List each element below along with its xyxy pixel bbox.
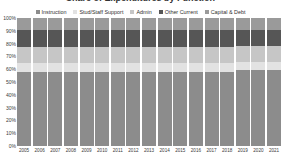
bar-segment-stud-staff-support[interactable] <box>33 63 47 72</box>
bar-segment-other-current[interactable] <box>95 30 109 48</box>
bar-segment-instruction[interactable] <box>17 72 31 146</box>
bar-segment-stud-staff-support[interactable] <box>95 63 109 72</box>
bar-2015[interactable] <box>173 18 187 146</box>
bar-segment-stud-staff-support[interactable] <box>64 63 78 72</box>
bar-segment-instruction[interactable] <box>267 70 281 146</box>
bar-2020[interactable] <box>251 18 265 146</box>
bar-segment-stud-staff-support[interactable] <box>158 63 172 72</box>
bar-segment-instruction[interactable] <box>64 72 78 146</box>
bar-segment-other-current[interactable] <box>205 30 219 48</box>
bar-segment-admin[interactable] <box>111 47 125 62</box>
legend-item[interactable]: Capital & Debt <box>205 9 246 15</box>
bar-segment-admin[interactable] <box>48 47 62 62</box>
bar-segment-stud-staff-support[interactable] <box>80 63 94 72</box>
bar-segment-instruction[interactable] <box>173 72 187 146</box>
bar-segment-admin[interactable] <box>95 47 109 62</box>
bar-segment-capital-debt[interactable] <box>33 18 47 30</box>
bar-segment-instruction[interactable] <box>111 72 125 146</box>
bar-segment-capital-debt[interactable] <box>189 18 203 30</box>
bar-segment-capital-debt[interactable] <box>126 18 140 30</box>
bar-2017[interactable] <box>205 18 219 146</box>
bar-segment-stud-staff-support[interactable] <box>48 63 62 72</box>
bar-segment-instruction[interactable] <box>158 72 172 146</box>
bar-2013[interactable] <box>142 18 156 146</box>
bar-segment-other-current[interactable] <box>80 30 94 48</box>
bar-segment-instruction[interactable] <box>95 72 109 146</box>
bar-2019[interactable] <box>236 18 250 146</box>
bar-segment-stud-staff-support[interactable] <box>126 63 140 72</box>
bar-segment-admin[interactable] <box>267 46 281 61</box>
bar-segment-capital-debt[interactable] <box>95 18 109 30</box>
bar-segment-instruction[interactable] <box>220 72 234 146</box>
bar-segment-stud-staff-support[interactable] <box>17 63 31 72</box>
bar-segment-other-current[interactable] <box>17 30 31 48</box>
bar-segment-capital-debt[interactable] <box>17 18 31 30</box>
bar-segment-capital-debt[interactable] <box>236 18 250 30</box>
bar-segment-other-current[interactable] <box>48 30 62 48</box>
bar-2012[interactable] <box>126 18 140 146</box>
bar-segment-admin[interactable] <box>33 47 47 62</box>
bar-segment-other-current[interactable] <box>173 30 187 48</box>
bar-segment-instruction[interactable] <box>205 72 219 146</box>
bar-segment-capital-debt[interactable] <box>111 18 125 30</box>
bar-segment-capital-debt[interactable] <box>142 18 156 30</box>
bar-segment-admin[interactable] <box>173 47 187 62</box>
bar-segment-capital-debt[interactable] <box>64 18 78 30</box>
legend-item[interactable]: Other Current <box>159 9 198 15</box>
bar-segment-admin[interactable] <box>142 47 156 62</box>
bar-2014[interactable] <box>158 18 172 146</box>
bar-segment-other-current[interactable] <box>189 30 203 48</box>
bar-segment-instruction[interactable] <box>48 72 62 146</box>
bar-segment-admin[interactable] <box>158 47 172 62</box>
bar-2007[interactable] <box>48 18 62 146</box>
bar-segment-instruction[interactable] <box>236 70 250 146</box>
bar-2008[interactable] <box>64 18 78 146</box>
bar-segment-admin[interactable] <box>80 47 94 62</box>
legend-item[interactable]: Instruction <box>36 9 67 15</box>
bar-segment-instruction[interactable] <box>251 70 265 146</box>
bar-segment-stud-staff-support[interactable] <box>173 63 187 72</box>
bar-segment-capital-debt[interactable] <box>80 18 94 30</box>
bar-2005[interactable] <box>17 18 31 146</box>
bar-2011[interactable] <box>111 18 125 146</box>
bar-segment-admin[interactable] <box>189 47 203 62</box>
legend-item[interactable]: Stud/Staff Support <box>73 9 123 15</box>
bar-segment-instruction[interactable] <box>189 72 203 146</box>
bar-segment-stud-staff-support[interactable] <box>205 63 219 72</box>
bar-segment-admin[interactable] <box>126 47 140 62</box>
bar-segment-admin[interactable] <box>251 46 265 61</box>
legend-item[interactable]: Admin <box>130 9 151 15</box>
bar-segment-stud-staff-support[interactable] <box>251 62 265 71</box>
bar-segment-capital-debt[interactable] <box>267 18 281 30</box>
bar-segment-capital-debt[interactable] <box>158 18 172 30</box>
bar-segment-capital-debt[interactable] <box>173 18 187 30</box>
bar-segment-capital-debt[interactable] <box>220 18 234 30</box>
bar-segment-admin[interactable] <box>236 46 250 61</box>
bar-segment-stud-staff-support[interactable] <box>111 63 125 72</box>
bar-segment-other-current[interactable] <box>111 30 125 48</box>
bar-2006[interactable] <box>33 18 47 146</box>
bar-segment-stud-staff-support[interactable] <box>189 63 203 72</box>
bar-segment-admin[interactable] <box>64 47 78 62</box>
bar-2016[interactable] <box>189 18 203 146</box>
bar-segment-other-current[interactable] <box>64 30 78 48</box>
bar-2018[interactable] <box>220 18 234 146</box>
bar-segment-admin[interactable] <box>17 47 31 62</box>
bar-segment-capital-debt[interactable] <box>205 18 219 30</box>
bar-segment-other-current[interactable] <box>126 30 140 48</box>
bar-segment-stud-staff-support[interactable] <box>220 63 234 72</box>
bar-segment-stud-staff-support[interactable] <box>267 62 281 71</box>
bar-segment-admin[interactable] <box>220 47 234 62</box>
bar-segment-stud-staff-support[interactable] <box>142 63 156 72</box>
bar-segment-other-current[interactable] <box>142 30 156 48</box>
bar-segment-instruction[interactable] <box>33 72 47 146</box>
bar-segment-other-current[interactable] <box>236 30 250 47</box>
bar-segment-admin[interactable] <box>205 47 219 62</box>
bar-segment-other-current[interactable] <box>33 30 47 48</box>
bar-segment-stud-staff-support[interactable] <box>236 62 250 71</box>
bar-segment-other-current[interactable] <box>251 30 265 47</box>
bar-segment-instruction[interactable] <box>126 72 140 146</box>
bar-segment-instruction[interactable] <box>80 72 94 146</box>
bar-segment-other-current[interactable] <box>220 30 234 48</box>
bar-segment-other-current[interactable] <box>158 30 172 48</box>
